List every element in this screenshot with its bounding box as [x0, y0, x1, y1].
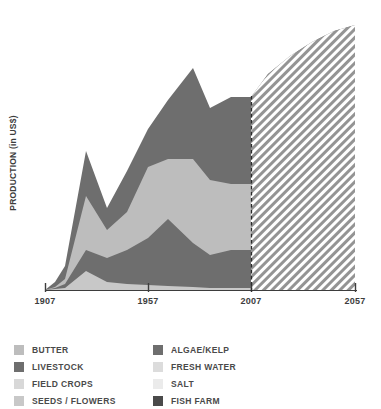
- legend-item-butter[interactable]: BUTTER: [14, 341, 116, 358]
- x-tick-label-1907: 1907: [34, 296, 55, 306]
- legend-item-salt[interactable]: SALT: [153, 375, 236, 392]
- legend-swatch-field-crops: [14, 379, 24, 389]
- legend-swatch-fresh-water: [153, 362, 163, 372]
- legend-swatch-seeds-flowers: [14, 396, 24, 406]
- legend-label-algae-kelp: ALGAE/KELP: [171, 345, 229, 355]
- legend-label-fresh-water: FRESH WATER: [171, 362, 236, 372]
- legend-swatch-butter: [14, 345, 24, 355]
- projection-hatch-overlay: [251, 25, 355, 290]
- x-tick-label-2007: 2007: [240, 296, 261, 306]
- legend-item-fish-farm[interactable]: FISH FARM: [153, 392, 236, 409]
- legend-label-seeds-flowers: SEEDS / FLOWERS: [32, 396, 116, 406]
- legend-label-livestock: LIVESTOCK: [32, 362, 84, 372]
- chart-container: PRODUCTION (in US$) 1907 1957 2007 2057 …: [0, 0, 381, 409]
- legend-item-livestock[interactable]: LIVESTOCK: [14, 358, 116, 375]
- legend-column-right: ALGAE/KELP FRESH WATER SALT FISH FARM: [153, 341, 236, 409]
- legend-item-fresh-water[interactable]: FRESH WATER: [153, 358, 236, 375]
- legend-label-fish-farm: FISH FARM: [171, 396, 220, 406]
- legend-column-left: BUTTER LIVESTOCK FIELD CROPS SEEDS / FLO…: [14, 341, 116, 409]
- x-tick-label-2057: 2057: [344, 296, 365, 306]
- x-tick-label-1957: 1957: [137, 296, 158, 306]
- y-axis-label: PRODUCTION (in US$): [8, 103, 18, 223]
- projected-areas: [251, 25, 355, 290]
- legend-item-field-crops[interactable]: FIELD CROPS: [14, 375, 116, 392]
- chart-legend: BUTTER LIVESTOCK FIELD CROPS SEEDS / FLO…: [14, 341, 364, 409]
- legend-swatch-livestock: [14, 362, 24, 372]
- legend-label-field-crops: FIELD CROPS: [32, 379, 93, 389]
- legend-label-butter: BUTTER: [32, 345, 69, 355]
- historical-areas: [45, 68, 251, 290]
- legend-swatch-algae-kelp: [153, 345, 163, 355]
- legend-label-salt: SALT: [171, 379, 194, 389]
- legend-swatch-fish-farm: [153, 396, 163, 406]
- legend-item-algae-kelp[interactable]: ALGAE/KELP: [153, 341, 236, 358]
- legend-swatch-salt: [153, 379, 163, 389]
- legend-item-seeds-flowers[interactable]: SEEDS / FLOWERS: [14, 392, 116, 409]
